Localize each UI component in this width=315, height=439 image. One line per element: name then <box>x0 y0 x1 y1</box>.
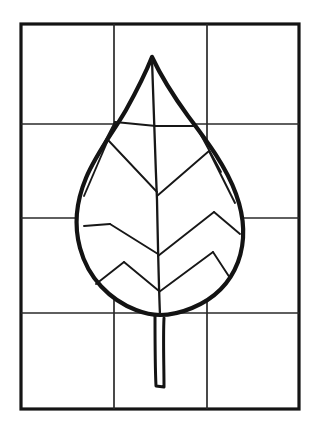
leaf-grid-figure <box>0 0 315 439</box>
illustration-canvas <box>0 0 315 439</box>
